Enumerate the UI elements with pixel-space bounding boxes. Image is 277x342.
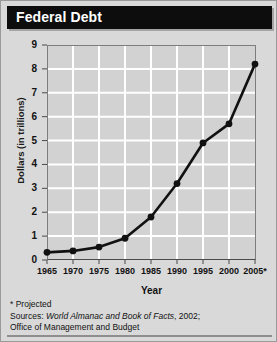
- y-tick-label: 2: [13, 206, 37, 217]
- y-tick-label: 1: [13, 230, 37, 241]
- data-point: [44, 249, 51, 256]
- series-line-federal-debt: [1, 31, 277, 301]
- x-axis-title: Year: [47, 285, 256, 296]
- y-tick-label: 4: [13, 158, 37, 169]
- projected-note: * Projected: [10, 299, 272, 311]
- data-point: [70, 248, 77, 255]
- footnotes: * Projected Sources: World Almanac and B…: [10, 299, 272, 334]
- y-tick-label: 6: [13, 111, 37, 122]
- page-title: Federal Debt: [16, 9, 102, 25]
- y-tick-label: 9: [13, 39, 37, 50]
- sources-note-line2: Office of Management and Budget: [10, 322, 272, 334]
- y-tick-label: 5: [13, 135, 37, 146]
- y-tick-label: 7: [13, 87, 37, 98]
- title-bar: Federal Debt: [7, 6, 272, 29]
- y-tick-label: 0: [13, 254, 37, 265]
- data-point: [174, 180, 181, 187]
- y-tick-label: 3: [13, 182, 37, 193]
- federal-debt-chart-card: Federal Debt Dollars (in trillions) 0123…: [0, 0, 277, 342]
- x-tick-label: 2005*: [238, 266, 272, 276]
- data-point: [252, 61, 259, 68]
- data-point: [122, 235, 129, 242]
- bottom-divider: [7, 335, 272, 337]
- data-point: [96, 244, 103, 251]
- gridlines: [48, 46, 255, 259]
- sources-publication: World Almanac and Book of Facts: [46, 311, 174, 321]
- data-point: [200, 140, 207, 147]
- data-point: [226, 120, 233, 127]
- data-point: [148, 214, 155, 221]
- sources-suffix: , 2002;: [174, 311, 200, 321]
- y-tick-label: 8: [13, 63, 37, 74]
- chart-area: Dollars (in trillions) 0123456789 196519…: [1, 31, 277, 301]
- sources-note: Sources: World Almanac and Book of Facts…: [10, 311, 272, 323]
- sources-prefix: Sources:: [10, 311, 46, 321]
